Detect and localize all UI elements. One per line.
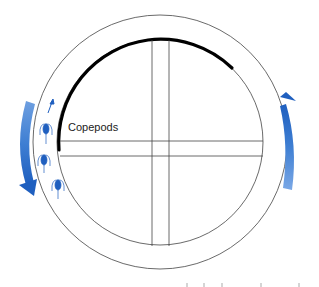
swim-direction-arrow-icon xyxy=(48,99,54,113)
copepods-label: Copepods xyxy=(68,121,118,133)
copepod-icon xyxy=(38,155,50,173)
outer-ring xyxy=(33,15,287,269)
bottom-marks xyxy=(187,283,299,287)
thick-arc xyxy=(59,39,232,150)
copepod-icon xyxy=(52,180,64,199)
planktonkreisel-diagram xyxy=(0,0,319,287)
rotation-arrow-ccw-left-icon xyxy=(19,101,37,196)
copepod-icon xyxy=(40,124,52,144)
